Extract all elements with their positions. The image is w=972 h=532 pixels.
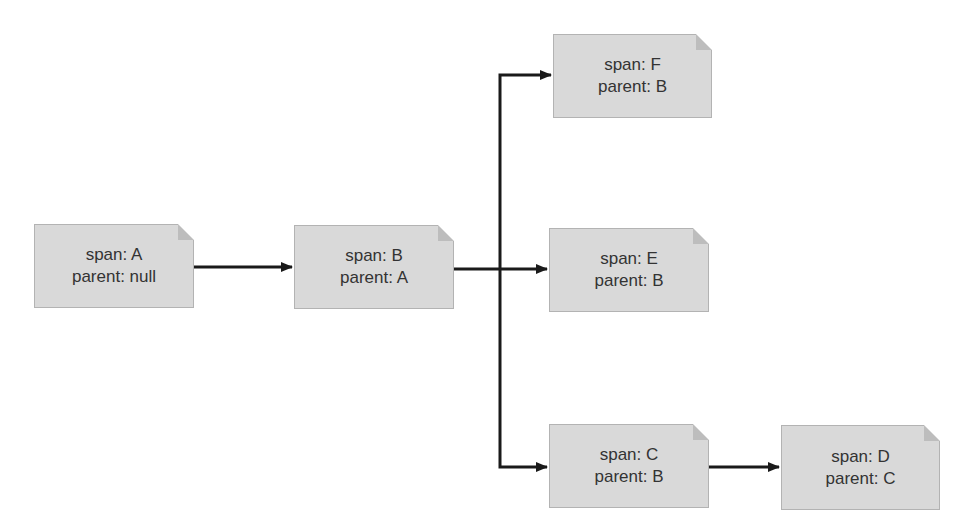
folded-corner-icon	[924, 425, 940, 441]
folded-corner-icon	[696, 34, 712, 50]
span-node-f: span: F parent: B	[553, 34, 712, 118]
span-label: span: C	[600, 444, 659, 466]
span-label: span: B	[345, 245, 403, 267]
span-node-c: span: C parent: B	[549, 424, 709, 508]
parent-label: parent: C	[826, 468, 896, 490]
span-label: span: E	[600, 248, 658, 270]
span-node-e: span: E parent: B	[549, 228, 709, 312]
edge-b-to-f	[500, 75, 551, 269]
edge-b-to-c	[500, 269, 547, 467]
span-label: span: A	[86, 244, 143, 266]
span-node-b: span: B parent: A	[294, 225, 454, 309]
parent-label: parent: B	[595, 270, 664, 292]
parent-label: parent: B	[598, 76, 667, 98]
parent-label: parent: A	[340, 267, 408, 289]
folded-corner-icon	[178, 224, 194, 240]
span-node-a: span: A parent: null	[34, 224, 194, 308]
parent-label: parent: null	[72, 266, 156, 288]
folded-corner-icon	[438, 225, 454, 241]
span-label: span: F	[604, 54, 661, 76]
span-node-d: span: D parent: C	[781, 425, 940, 510]
folded-corner-icon	[693, 424, 709, 440]
span-label: span: D	[831, 446, 890, 468]
parent-label: parent: B	[595, 466, 664, 488]
folded-corner-icon	[693, 228, 709, 244]
